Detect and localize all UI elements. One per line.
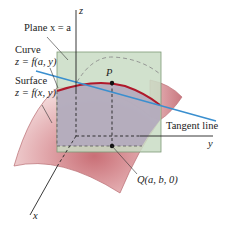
x-axis (30, 165, 58, 215)
point-p-label: P (106, 67, 112, 79)
y-axis-label: y (208, 138, 213, 150)
x-axis-label: x (33, 210, 38, 222)
curve-equation-label: z = f(a, y) (15, 56, 57, 68)
surface-equation-label: z = f(x, y) (15, 87, 56, 99)
surface-title-label: Surface (15, 75, 47, 87)
point-q-label: Q(a, b, 0) (137, 174, 178, 186)
curve-title-label: Curve (15, 44, 41, 56)
diagram-canvas (0, 0, 230, 229)
point-p (110, 81, 114, 85)
z-axis-label: z (79, 5, 83, 17)
partial-derivative-diagram: Plane x = a Curve z = f(a, y) Surface z … (0, 0, 230, 229)
plane-label: Plane x = a (24, 22, 71, 34)
tangent-line-label: Tangent line (166, 120, 218, 132)
